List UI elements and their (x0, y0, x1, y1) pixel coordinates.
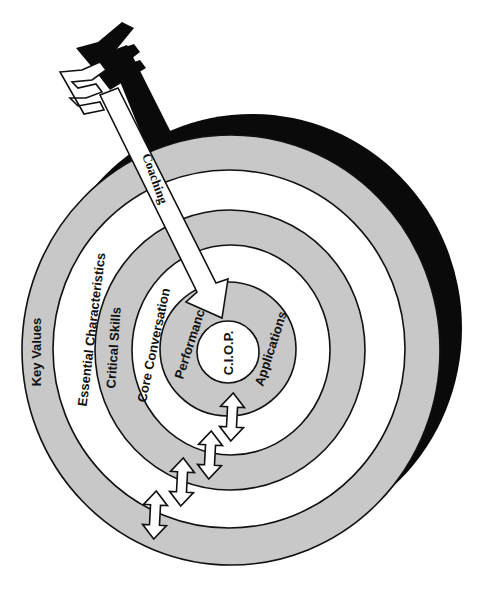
label-ciop: C.I.O.P. (221, 331, 236, 376)
label-key-values: Key Values (29, 318, 44, 387)
arrow-fletching (60, 62, 106, 114)
target-diagram: Key Values Essential Characteristics Cri… (0, 0, 481, 589)
